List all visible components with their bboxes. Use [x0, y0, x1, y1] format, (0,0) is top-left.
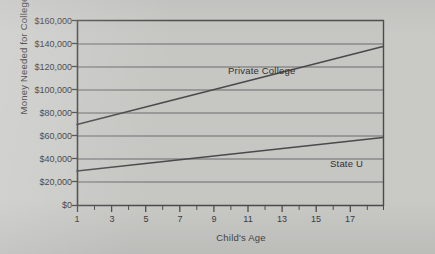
x-tick-label: 7: [165, 214, 195, 224]
x-tick-label: 5: [131, 214, 161, 224]
x-tick-label: 17: [335, 214, 365, 224]
x-tick-label: 15: [301, 214, 331, 224]
x-tick-label: 9: [199, 214, 229, 224]
x-axis-title: Child's Age: [96, 232, 386, 243]
x-tick-label: 11: [233, 214, 263, 224]
chart-figure: Money Needed for College $160,000 $140,0…: [0, 0, 435, 254]
x-axis-tick-labels: 1 3 5 7 9 11 13 15 17: [0, 0, 435, 254]
series-label-state-u: State U: [330, 158, 363, 169]
x-tick-label: 3: [97, 214, 127, 224]
series-label-private-college: Private College: [228, 65, 295, 76]
x-tick-label: 13: [267, 214, 297, 224]
x-tick-label: 1: [62, 214, 92, 224]
